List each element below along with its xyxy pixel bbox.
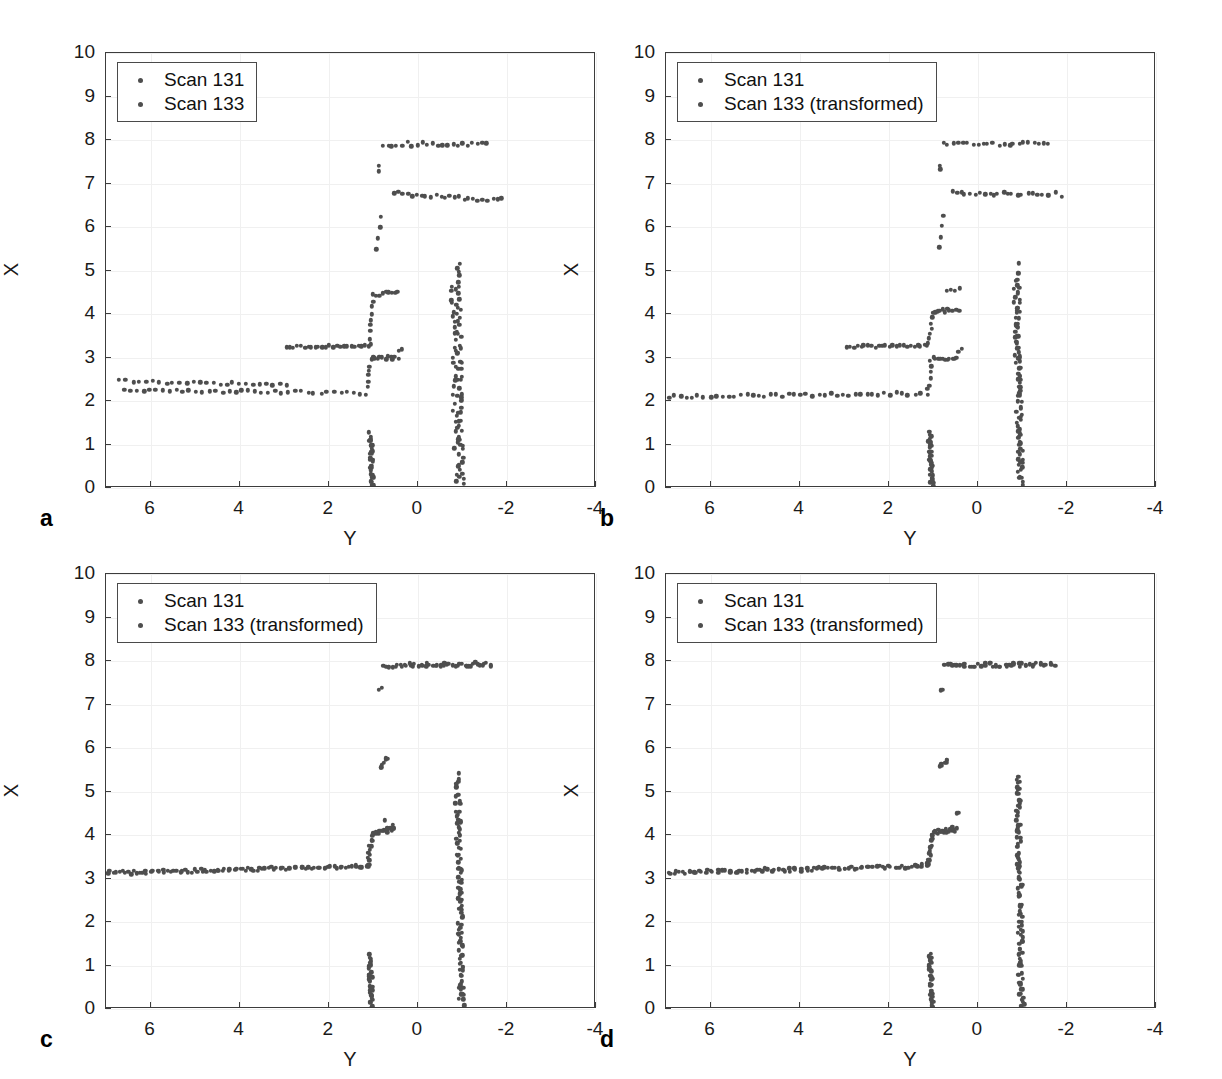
x-tick	[977, 1002, 978, 1008]
y-tick-label: 2	[607, 910, 655, 932]
data-point	[972, 665, 976, 669]
data-point	[1053, 664, 1057, 668]
data-point	[1016, 886, 1020, 890]
data-point	[668, 871, 672, 875]
x-tick	[710, 1002, 711, 1008]
data-point	[1022, 1002, 1026, 1006]
gridline-horizontal	[666, 1009, 1154, 1010]
data-point	[883, 866, 887, 870]
data-point	[853, 867, 857, 871]
data-point	[942, 663, 946, 667]
figure-root: 0123456789106420-2-4YXScan 131Scan 133a0…	[0, 0, 1222, 1079]
x-tick-label: -4	[1147, 1018, 1164, 1040]
x-tick-label: 0	[972, 1018, 983, 1040]
legend-d[interactable]: Scan 131Scan 133 (transformed)	[677, 583, 937, 643]
data-point	[956, 811, 960, 815]
y-tick-label: 0	[607, 997, 655, 1019]
y-tick-label: 9	[607, 606, 655, 628]
x-tick	[1155, 1002, 1156, 1008]
y-tick	[665, 878, 671, 879]
y-tick	[665, 791, 671, 792]
data-point	[847, 866, 851, 870]
data-point	[1021, 935, 1025, 939]
data-point	[753, 869, 757, 873]
y-axis-title: X	[560, 783, 583, 796]
data-point	[1043, 663, 1047, 667]
legend-label: Scan 133 (transformed)	[714, 614, 924, 636]
data-point	[939, 764, 943, 768]
x-tick-label: -2	[1057, 1018, 1074, 1040]
y-tick	[665, 660, 671, 661]
data-point	[859, 866, 863, 870]
data-point	[830, 866, 834, 870]
data-point	[944, 757, 948, 761]
panel-d: 0123456789106420-2-4YXScan 131Scan 133 (…	[0, 0, 1222, 1079]
x-tick	[888, 1002, 889, 1008]
data-point	[929, 838, 933, 842]
y-tick	[665, 965, 671, 966]
gridline-vertical	[1156, 574, 1157, 1007]
y-tick	[665, 573, 671, 574]
y-tick-label: 1	[607, 954, 655, 976]
data-point	[888, 865, 892, 869]
data-point	[1020, 971, 1024, 975]
y-tick-label: 7	[607, 693, 655, 715]
data-point	[1017, 786, 1021, 790]
data-point	[1018, 823, 1022, 827]
data-point	[928, 845, 932, 849]
data-point	[1015, 844, 1019, 848]
legend-item[interactable]: Scan 131	[686, 589, 924, 613]
data-point	[920, 862, 924, 866]
x-tick-label: 6	[704, 1018, 715, 1040]
legend-marker-dot-icon	[686, 616, 714, 634]
data-point	[928, 984, 932, 988]
data-point	[1015, 813, 1019, 817]
dot-icon	[698, 599, 703, 604]
y-tick	[665, 704, 671, 705]
data-point	[1017, 664, 1021, 668]
data-point	[1018, 893, 1022, 897]
legend-label: Scan 131	[714, 590, 804, 612]
data-point	[1019, 840, 1023, 844]
data-point	[1020, 883, 1024, 887]
y-tick	[665, 921, 671, 922]
x-tick-label: 4	[793, 1018, 804, 1040]
data-point	[1014, 818, 1018, 822]
data-point	[1031, 663, 1035, 667]
data-point	[940, 687, 944, 691]
y-tick-label: 3	[607, 867, 655, 889]
data-point	[770, 869, 774, 873]
y-tick-label: 10	[607, 562, 655, 584]
data-point	[1012, 662, 1016, 666]
data-point	[930, 1005, 934, 1007]
y-tick	[665, 834, 671, 835]
dot-icon	[698, 623, 703, 628]
x-axis-title: Y	[903, 1048, 916, 1071]
y-tick-label: 4	[607, 823, 655, 845]
data-point	[955, 826, 959, 830]
data-point	[979, 664, 983, 668]
data-point	[1020, 940, 1024, 944]
data-point	[906, 866, 910, 870]
y-tick	[665, 617, 671, 618]
y-tick-label: 6	[607, 736, 655, 758]
data-point	[1021, 976, 1025, 980]
panel-label-d: d	[600, 1026, 614, 1053]
x-tick	[799, 1002, 800, 1008]
x-tick	[1066, 1002, 1067, 1008]
data-point	[930, 977, 934, 981]
y-tick-label: 5	[607, 780, 655, 802]
y-tick-label: 8	[607, 649, 655, 671]
legend-marker-dot-icon	[686, 592, 714, 610]
data-point	[1020, 920, 1024, 924]
y-tick	[665, 1008, 671, 1009]
data-point	[894, 866, 898, 870]
x-tick-label: 2	[882, 1018, 893, 1040]
legend-item[interactable]: Scan 133 (transformed)	[686, 613, 924, 637]
data-point	[1018, 780, 1022, 784]
data-point	[723, 868, 727, 872]
data-point	[728, 870, 732, 874]
data-point	[997, 665, 1001, 669]
y-tick	[665, 747, 671, 748]
data-point	[1020, 929, 1024, 933]
